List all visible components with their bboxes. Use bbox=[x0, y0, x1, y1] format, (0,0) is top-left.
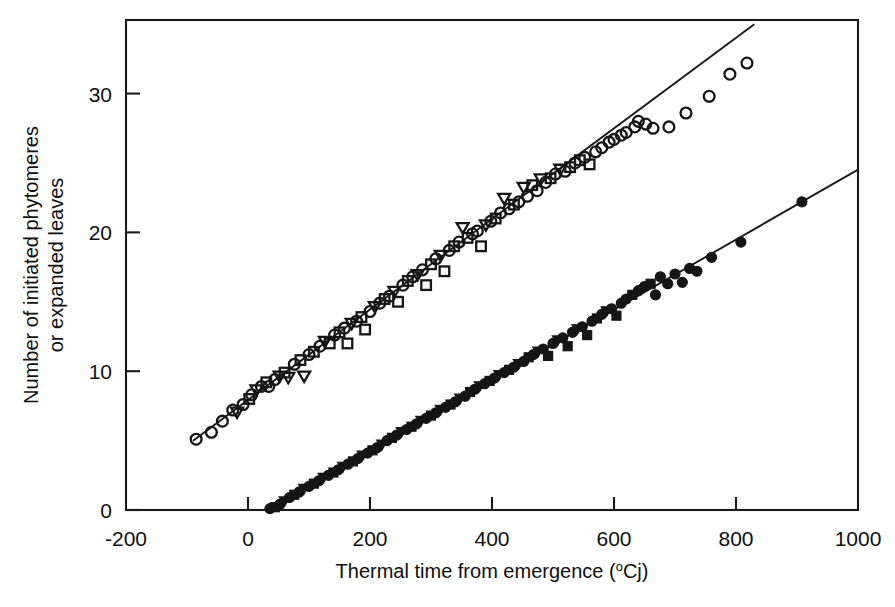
filled-circle-marker bbox=[650, 290, 660, 300]
filled-square-marker bbox=[646, 279, 655, 288]
open-square-marker bbox=[343, 339, 353, 349]
filled-circle-marker bbox=[692, 266, 702, 276]
x-axis-title: Thermal time from emergence (oCj) bbox=[336, 559, 649, 582]
scatter-figure: -20002004006008001000 0102030 Thermal ti… bbox=[0, 0, 895, 607]
plot-frame bbox=[126, 20, 858, 510]
x-axis-tick-labels: -20002004006008001000 bbox=[105, 527, 881, 550]
filled-circle-marker bbox=[736, 237, 746, 247]
x-tick-label: 600 bbox=[596, 527, 631, 550]
open-circle-marker bbox=[664, 121, 675, 132]
open-circle-marker bbox=[704, 91, 715, 102]
filled-square-marker bbox=[563, 342, 572, 351]
y-tick-label: 10 bbox=[89, 360, 112, 383]
y-axis-title-line2: or expanded leaves bbox=[45, 178, 67, 353]
y-axis-title-line1: Number of initiated phytomeres bbox=[20, 126, 42, 404]
x-axis-ticks bbox=[248, 497, 736, 510]
open-circle-marker bbox=[206, 427, 217, 438]
filled-circle-marker bbox=[797, 197, 807, 207]
y-axis-tick-labels: 0102030 bbox=[89, 83, 112, 522]
filled-square-marker bbox=[612, 311, 621, 320]
x-tick-label: 200 bbox=[352, 527, 387, 550]
open-square-marker bbox=[440, 266, 450, 276]
y-tick-label: 30 bbox=[89, 83, 112, 106]
x-tick-label: 800 bbox=[718, 527, 753, 550]
plot-canvas: -20002004006008001000 0102030 Thermal ti… bbox=[0, 0, 895, 607]
open-circle-marker bbox=[742, 58, 753, 69]
x-tick-label: -200 bbox=[105, 527, 147, 550]
open-triangle-down-marker bbox=[298, 372, 310, 382]
filled-circle-marker bbox=[677, 277, 687, 287]
open-square-marker bbox=[476, 241, 486, 251]
filled-square-marker bbox=[544, 351, 553, 360]
open-square-marker bbox=[360, 325, 370, 335]
filled-circle-marker bbox=[670, 269, 680, 279]
open-circle-marker bbox=[725, 69, 736, 80]
y-axis-ticks bbox=[126, 94, 140, 510]
y-tick-label: 20 bbox=[89, 221, 112, 244]
x-tick-label: 400 bbox=[474, 527, 509, 550]
filled-square-marker bbox=[583, 331, 592, 340]
y-axis-title-group: Number of initiated phytomeres or expand… bbox=[20, 126, 67, 404]
data-points-expanded-leaves bbox=[265, 197, 807, 514]
open-square-marker bbox=[421, 280, 431, 290]
y-tick-label: 0 bbox=[100, 499, 112, 522]
filled-circle-marker bbox=[663, 279, 673, 289]
x-tick-label: 1000 bbox=[835, 527, 882, 550]
filled-circle-marker bbox=[707, 252, 717, 262]
x-tick-label: 0 bbox=[242, 527, 254, 550]
open-circle-marker bbox=[681, 108, 692, 119]
